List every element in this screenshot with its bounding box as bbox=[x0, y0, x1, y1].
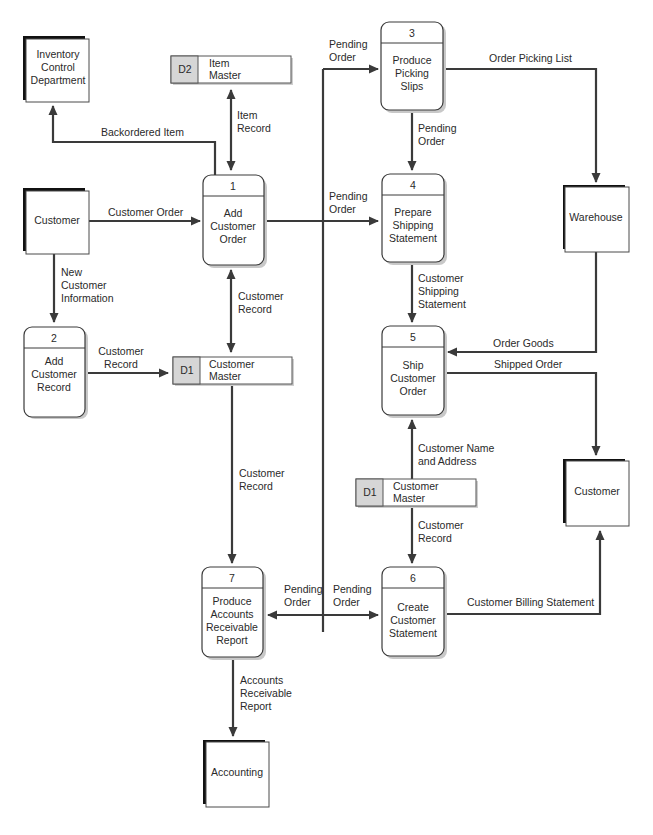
label-customer-order: Customer Order bbox=[108, 206, 184, 218]
svg-text:1: 1 bbox=[230, 180, 236, 192]
process-1-add-customer-order: 1 AddCustomerOrder bbox=[203, 175, 267, 268]
entity-inventory-control: InventoryControlDepartment bbox=[23, 36, 89, 102]
label-pending-order-p3: PendingOrder bbox=[329, 38, 368, 63]
entity-customer-right: Customer bbox=[563, 459, 629, 526]
svg-text:4: 4 bbox=[410, 179, 416, 191]
label-backordered-item: Backordered Item bbox=[101, 126, 184, 138]
data-store-d2-item-master: D2 ItemMaster bbox=[171, 56, 293, 85]
label-order-picking-list: Order Picking List bbox=[489, 52, 572, 64]
label-pending-order-3to4: PendingOrder bbox=[418, 122, 457, 147]
process-5-ship-customer-order: 5 ShipCustomerOrder bbox=[382, 326, 447, 418]
label-new-customer-info: NewCustomerInformation bbox=[61, 266, 114, 304]
process-7-produce-ar-report: 7 ProduceAccountsReceivableReport bbox=[202, 567, 266, 660]
svg-text:Accounting: Accounting bbox=[211, 766, 263, 778]
svg-text:D1: D1 bbox=[180, 364, 194, 376]
svg-text:2: 2 bbox=[51, 332, 57, 344]
data-store-d1-customer-master-top: D1 CustomerMaster bbox=[173, 357, 294, 386]
svg-text:7: 7 bbox=[229, 572, 235, 584]
data-flow-diagram: InventoryControlDepartment Customer Ware… bbox=[0, 0, 653, 835]
label-customer-billing-statement: Customer Billing Statement bbox=[467, 596, 594, 608]
data-store-d1-customer-master-bottom: D1 CustomerMaster bbox=[356, 479, 478, 508]
label-customer-record-d1-p7: CustomerRecord bbox=[239, 467, 285, 492]
label-pending-order-p7: PendingOrder bbox=[284, 583, 323, 608]
label-customer-record-p2: CustomerRecord bbox=[98, 345, 144, 370]
label-pending-order-p6: PendingOrder bbox=[333, 583, 372, 608]
svg-text:Customer: Customer bbox=[34, 214, 80, 226]
label-customer-record-p1: CustomerRecord bbox=[238, 290, 284, 315]
flow-order-picking-list bbox=[443, 69, 596, 182]
svg-text:D2: D2 bbox=[178, 63, 192, 75]
label-order-goods: Order Goods bbox=[493, 337, 554, 349]
label-customer-record-d1-p6: CustomerRecord bbox=[418, 519, 464, 544]
svg-text:PrepareShippingStatement: PrepareShippingStatement bbox=[389, 206, 437, 244]
svg-text:D1: D1 bbox=[363, 486, 377, 498]
label-accounts-receivable-report: AccountsReceivableReport bbox=[240, 674, 292, 712]
svg-text:Warehouse: Warehouse bbox=[569, 211, 622, 223]
label-item-record: ItemRecord bbox=[237, 109, 271, 134]
label-shipped-order: Shipped Order bbox=[494, 358, 563, 370]
svg-text:5: 5 bbox=[410, 331, 416, 343]
process-6-create-customer-statement: 6 CreateCustomerStatement bbox=[382, 567, 447, 659]
label-customer-shipping-statement: CustomerShippingStatement bbox=[418, 272, 466, 310]
label-customer-name-address: Customer Nameand Address bbox=[418, 442, 495, 467]
process-2-add-customer-record: 2 AddCustomerRecord bbox=[24, 327, 88, 419]
entity-warehouse: Warehouse bbox=[563, 185, 629, 252]
flow-backordered-item bbox=[53, 106, 215, 176]
label-pending-order-p4: PendingOrder bbox=[329, 190, 368, 215]
process-3-produce-picking-slips: 3 ProducePickingSlips bbox=[381, 22, 446, 113]
svg-text:Customer: Customer bbox=[574, 485, 620, 497]
svg-text:6: 6 bbox=[410, 572, 416, 584]
process-4-prepare-shipping-statement: 4 PrepareShippingStatement bbox=[382, 174, 447, 265]
entity-accounting: Accounting bbox=[203, 740, 269, 807]
svg-text:3: 3 bbox=[409, 27, 415, 39]
entity-customer-left: Customer bbox=[23, 188, 89, 254]
